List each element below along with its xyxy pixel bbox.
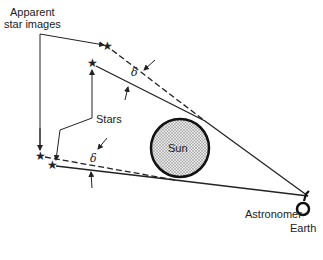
star-apparent-lower: ★ <box>35 150 46 162</box>
star-apparent-upper: ★ <box>102 40 113 52</box>
stars-pointer-horizontal <box>60 118 92 130</box>
stars-pointer-lower <box>56 130 60 160</box>
astronomer-figure <box>304 191 309 201</box>
star-true-lower: ★ <box>47 159 58 171</box>
delta-arrow-upper-b <box>125 87 128 100</box>
delta-lower: δ <box>90 152 97 165</box>
delta-arrow-upper-a <box>144 60 155 70</box>
apparent-pointer-upper <box>40 34 104 45</box>
delta-arrow-lower-a <box>98 138 107 149</box>
upper-apparent-line <box>112 50 205 121</box>
stars-label: Stars <box>96 113 122 125</box>
sun-label: Sun <box>168 142 188 154</box>
delta-upper: δ <box>131 66 138 79</box>
deflection-diagram <box>0 0 323 260</box>
delta-arrow-lower-b <box>91 172 92 188</box>
star-true-upper: ★ <box>87 57 98 69</box>
astronomer-label: Astronomer <box>245 208 302 220</box>
earth-label: Earth <box>290 222 316 234</box>
apparent-label-line2: star images <box>4 18 61 30</box>
apparent-label-line1: Apparent <box>10 6 55 18</box>
